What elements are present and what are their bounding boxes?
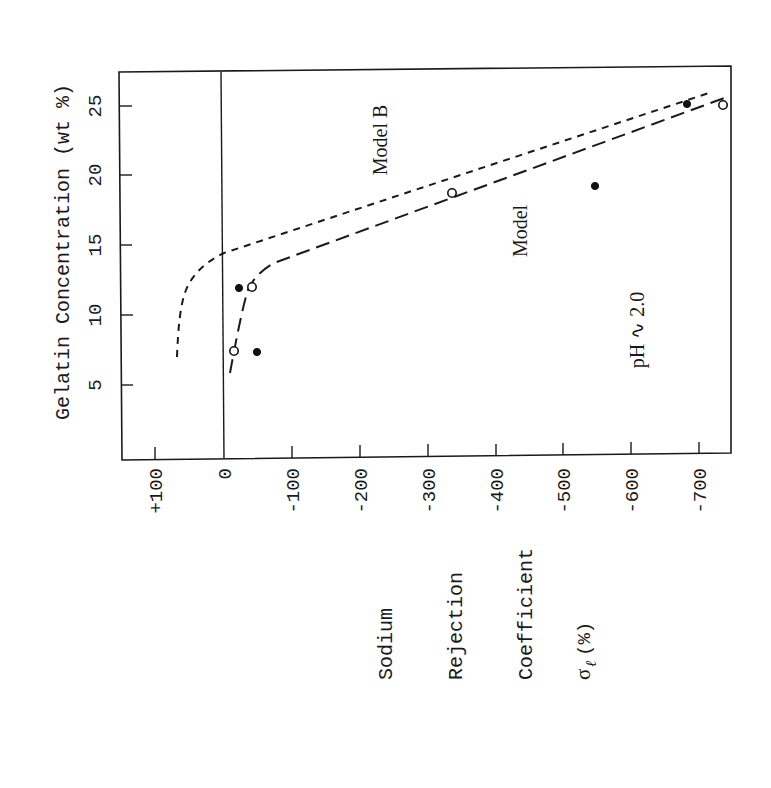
x-tick-label: 15 [85,234,107,257]
data-point-filled [683,100,690,107]
y-axis-tick-labels: +100 0 -100 -200 -300 -400 -500 -600 -70… [146,468,712,514]
y-tick-label: +100 [146,468,168,514]
y-tick-label: -700 [690,468,712,514]
data-point-open [719,101,727,109]
data-point-filled [235,284,242,291]
x-axis-ticks [120,106,133,385]
sigma-subscript: ℓ [583,661,599,667]
model-curve [230,97,727,373]
open-circle-series [230,101,727,355]
model-label: Model [509,204,531,257]
chart-figure: 25 20 15 10 5 +100 0 -100 -200 -300 -400… [0,0,771,788]
y-tick-label: 0 [215,468,237,479]
y-axis-title-line-3: Coefficient [515,548,538,680]
x-tick-label: 5 [85,379,107,390]
filled-circle-series [235,100,690,355]
x-tick-label: 10 [85,304,107,327]
x-axis-title: Gelatin Concentration (wt %) [52,84,75,420]
data-point-filled [253,348,260,355]
y-axis-title: Sodium Rejection Coefficient σ ℓ (%) [375,548,599,680]
sigma-symbol: σ [571,669,595,680]
data-point-open [248,283,256,291]
data-point-filled [591,182,598,189]
x-axis-tick-labels: 25 20 15 10 5 [85,95,107,391]
y-tick-label: -500 [554,468,576,514]
x-tick-label: 20 [85,164,107,187]
y-axis-title-symbol: σ ℓ (%) [571,622,599,680]
y-tick-label: -600 [622,468,644,514]
data-point-open [448,189,456,197]
zero-reference-line [221,72,224,458]
model-b-label: Model B [369,105,391,176]
y-tick-label: -400 [487,468,509,514]
y-tick-label: -300 [419,468,441,514]
data-point-open [230,347,238,355]
sigma-unit: (%) [574,622,596,656]
y-axis-title-line-2: Rejection [445,572,468,680]
x-tick-label: 25 [85,95,107,118]
y-tick-label: -100 [283,468,305,514]
y-axis-title-line-1: Sodium [375,608,398,680]
y-tick-label: -200 [351,468,373,514]
plot-frame [119,66,731,460]
ph-annotation: pH ∿ 2.0 [626,292,649,368]
